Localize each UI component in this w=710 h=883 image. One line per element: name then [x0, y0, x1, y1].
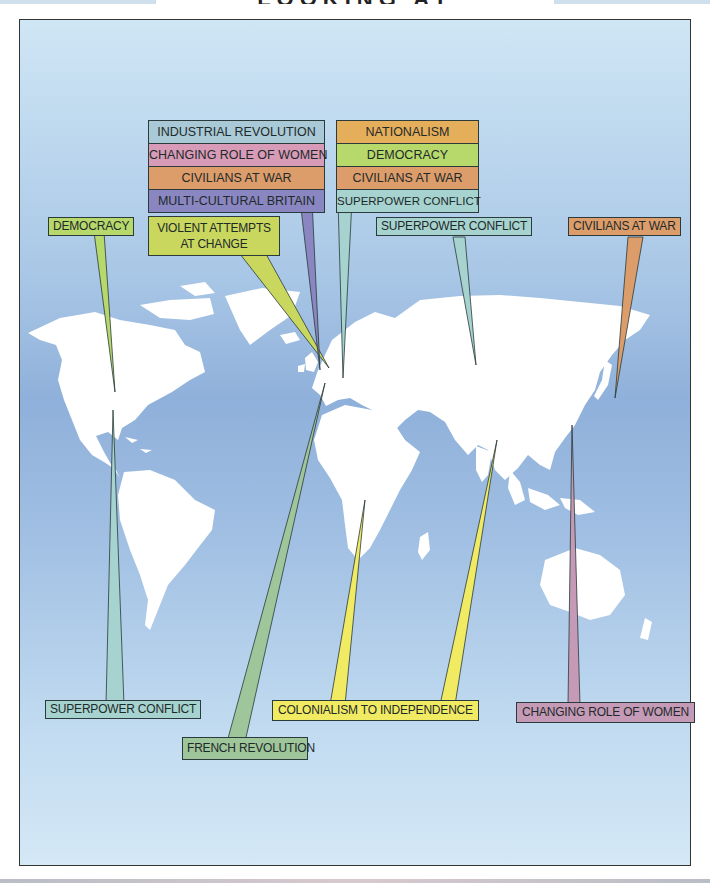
land-masses	[28, 282, 652, 640]
label-violent-line2: AT CHANGE	[153, 236, 275, 252]
pointer-colonialism-india	[440, 440, 497, 705]
pointer-french-revolution	[227, 383, 325, 742]
label-superpower-americas: SUPERPOWER CONFLICT	[45, 700, 201, 719]
label-democracy-usa: DEMOCRACY	[48, 217, 134, 236]
topic-democracy: DEMOCRACY	[337, 144, 478, 167]
pointer-britain-stack	[300, 200, 320, 370]
britain-topics-stack: INDUSTRIAL REVOLUTION CHANGING ROLE OF W…	[148, 120, 325, 213]
label-civilians-japan: CIVILIANS AT WAR	[568, 217, 681, 236]
page-title-cropped: LOOKING AT	[180, 0, 530, 4]
label-violent-attempts: VIOLENT ATTEMPTS AT CHANGE	[148, 216, 280, 256]
topic-changing-role-of-women: CHANGING ROLE OF WOMEN	[149, 144, 324, 167]
europe-topics-stack: NATIONALISM DEMOCRACY CIVILIANS AT WAR S…	[336, 120, 479, 213]
topic-civilians-at-war: CIVILIANS AT WAR	[337, 167, 478, 190]
topic-multi-cultural-britain: MULTI-CULTURAL BRITAIN	[149, 190, 324, 212]
bottom-page-strip	[0, 879, 710, 883]
label-french-revolution: FRENCH REVOLUTION	[182, 737, 308, 760]
label-women-china: CHANGING ROLE OF WOMEN	[516, 702, 695, 723]
label-colonialism: COLONIALISM TO INDEPENDENCE	[272, 700, 479, 721]
topic-superpower-conflict: SUPERPOWER CONFLICT	[337, 190, 478, 212]
topic-civilians-at-war: CIVILIANS AT WAR	[149, 167, 324, 190]
topic-industrial-revolution: INDUSTRIAL REVOLUTION	[149, 121, 324, 144]
topic-nationalism: NATIONALISM	[337, 121, 478, 144]
label-violent-line1: VIOLENT ATTEMPTS	[153, 220, 275, 236]
pointer-superpower-americas	[106, 410, 124, 705]
label-superpower-russia: SUPERPOWER CONFLICT	[376, 217, 532, 236]
